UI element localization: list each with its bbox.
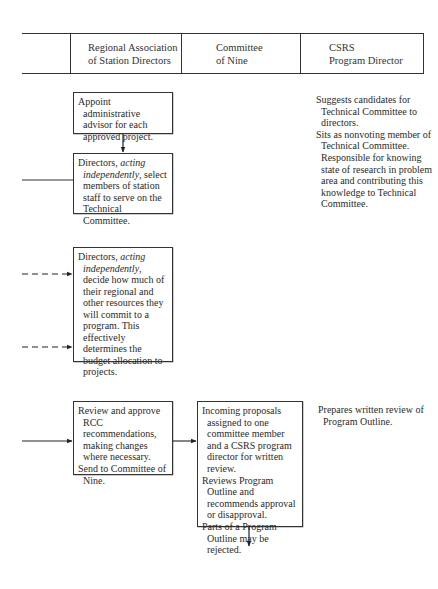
connectors-layer (0, 0, 438, 589)
